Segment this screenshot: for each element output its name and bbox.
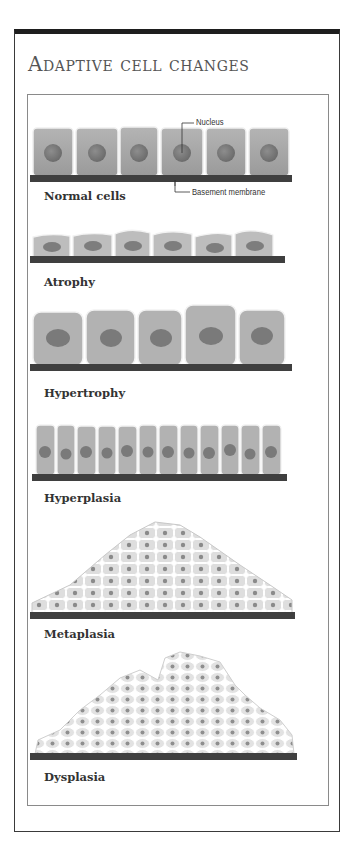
basement-membrane <box>32 474 287 481</box>
basement-membrane <box>30 612 295 619</box>
hyperplasia-illustration <box>30 420 320 482</box>
basement-membrane <box>30 753 297 760</box>
basement-membrane <box>30 364 292 371</box>
nucleus-callout: Nucleus <box>196 117 224 127</box>
panel-label-hypertrophy: Hypertrophy <box>44 386 125 400</box>
hypertrophy-illustration <box>30 302 320 374</box>
panel-label-atrophy: Atrophy <box>44 275 95 289</box>
panel-label-hyperplasia: Hyperplasia <box>44 491 121 505</box>
cell-row <box>33 127 289 176</box>
panel-label-normal-cells: Normal cells <box>44 189 126 203</box>
atrophy-illustration <box>30 225 320 267</box>
dysplasia-illustration <box>30 650 320 768</box>
normal-cells-illustration <box>30 120 320 186</box>
basement-membrane <box>30 256 285 263</box>
panel-label-metaplasia: Metaplasia <box>44 627 115 641</box>
figure-title-text: Adaptive cell changes <box>28 52 250 76</box>
figure-title: Adaptive cell changes <box>28 52 250 76</box>
metaplasia-illustration <box>30 515 320 627</box>
panel-label-dysplasia: Dysplasia <box>44 770 105 784</box>
